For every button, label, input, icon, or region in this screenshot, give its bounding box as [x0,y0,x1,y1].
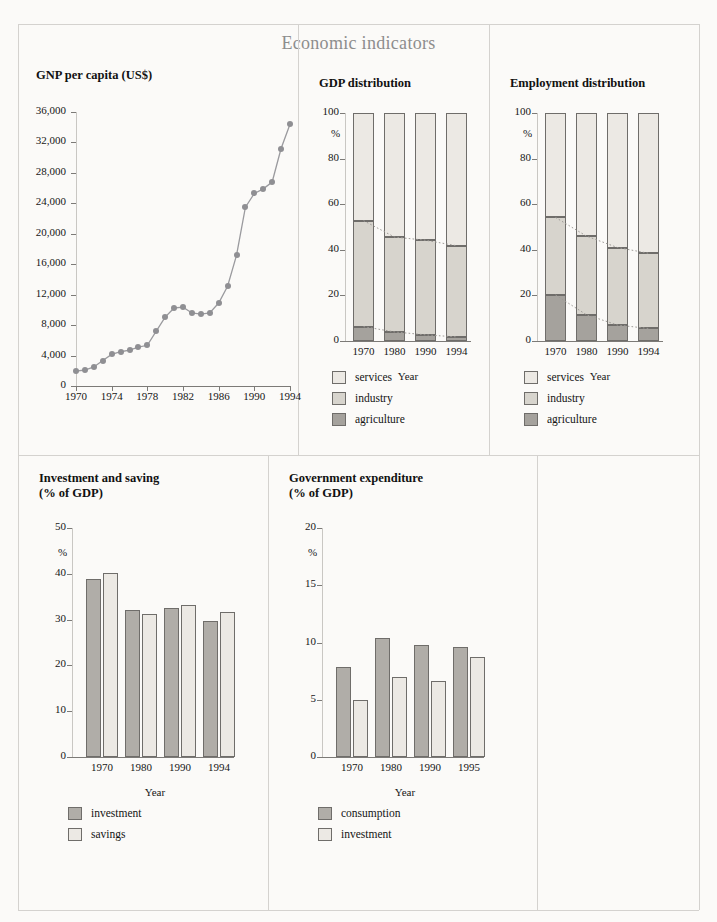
x-tick-label: 1980 [369,761,413,773]
y-tick [317,757,322,758]
bar-investment [353,700,368,757]
y-tick [317,700,322,701]
percent-symbol: % [308,546,317,558]
bar-consumption [453,647,468,757]
legend-label-investment: investment [341,828,391,840]
bar-investment [470,657,485,757]
gov-x-axis-title: Year [355,786,455,798]
bar-investment [431,681,446,757]
gov-y-axis [322,528,323,757]
x-tick-label: 1990 [408,761,452,773]
y-tick [317,528,322,529]
percent-symbol: % [58,546,67,558]
y-tick-label: 5 [282,692,316,704]
panel-empty [537,455,699,910]
swatch-investment [318,828,332,841]
page-root: Economic indicators GNP per capita (US$)… [0,0,717,922]
y-tick [317,643,322,644]
y-tick [317,585,322,586]
percent-symbol: % [331,127,340,139]
legend-item[interactable]: investment [318,825,400,843]
percent-symbol: % [523,127,532,139]
legend-item[interactable]: consumption [318,804,400,822]
y-tick-label: 0 [282,749,316,761]
x-tick-label: 1995 [447,761,491,773]
legend-government-expenditure: consumption investment [318,804,400,846]
bar-consumption [414,645,429,757]
y-tick-label: 10 [282,635,316,647]
gov-x-axis [322,757,484,758]
y-tick-label: 20 [282,520,316,532]
bar-consumption [336,667,351,757]
x-tick-label: 1970 [330,761,374,773]
swatch-consumption [318,807,332,820]
bar-consumption [375,638,390,757]
legend-label-consumption: consumption [341,807,400,819]
bar-investment [392,677,407,757]
y-tick-label: 15 [282,577,316,589]
